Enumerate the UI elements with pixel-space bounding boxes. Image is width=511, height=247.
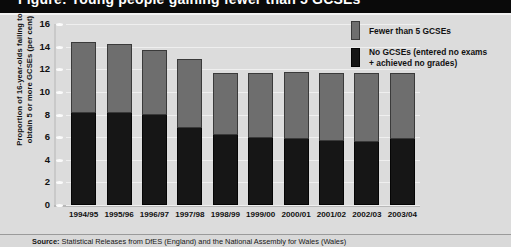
y-axis-tick: [56, 181, 63, 184]
bar-1998-99[interactable]: [213, 73, 238, 205]
source-body: Statistical Releases from DfES (England)…: [62, 237, 347, 246]
y-tick-label: 4: [10, 154, 50, 165]
x-tick-label: 1997/98: [172, 210, 207, 219]
legend-label: No GCSEs (entered no exams+ achieved no …: [369, 47, 487, 68]
legend-item[interactable]: No GCSEs (entered no exams+ achieved no …: [351, 47, 487, 70]
y-tick-label: 2: [10, 176, 50, 187]
chart-panel: Proportion of 16-year-olds failing toobt…: [0, 13, 511, 234]
bar-segment-fewer-than-5: [319, 73, 344, 141]
title-band: Figure: Young people gaining fewer than …: [0, 0, 511, 13]
bar-1994-95[interactable]: [71, 42, 96, 205]
bar-2000-01[interactable]: [284, 72, 309, 205]
y-axis-tick: [56, 68, 63, 71]
bar-segment-no-gcses: [390, 139, 415, 205]
bar-2003-04[interactable]: [390, 73, 415, 205]
bar-segment-no-gcses: [248, 138, 273, 205]
bar-segment-no-gcses: [284, 139, 309, 205]
figure-title: Figure: Young people gaining fewer than …: [18, 0, 361, 7]
y-tick-label: 6: [10, 131, 50, 142]
x-tick-label: 1995/96: [101, 210, 136, 219]
x-tick-label: 2002/03: [349, 210, 384, 219]
legend-item[interactable]: Fewer than 5 GCSEs: [351, 20, 487, 38]
y-axis-tick: [56, 204, 63, 207]
x-tick-label: 2000/01: [278, 210, 313, 219]
bar-segment-no-gcses: [319, 141, 344, 205]
legend-swatch-icon: [351, 21, 360, 40]
x-tick-label: 2003/04: [385, 210, 420, 219]
source-label: Source:: [32, 237, 60, 246]
y-axis-tick: [56, 91, 63, 94]
bar-1996-97[interactable]: [142, 50, 167, 205]
bar-segment-fewer-than-5: [177, 59, 202, 128]
x-tick-label: 1996/97: [137, 210, 172, 219]
bar-segment-fewer-than-5: [107, 44, 132, 113]
figure-chart-root: Figure: Young people gaining fewer than …: [0, 0, 511, 247]
bar-segment-fewer-than-5: [390, 73, 415, 140]
y-axis-tick: [56, 23, 63, 26]
gridline: [66, 205, 420, 206]
bar-segment-fewer-than-5: [248, 73, 273, 139]
bar-2002-03[interactable]: [354, 73, 379, 205]
legend: Fewer than 5 GCSEsNo GCSEs (entered no e…: [351, 20, 487, 79]
bar-1997-98[interactable]: [177, 59, 202, 205]
y-tick-label: 10: [10, 86, 50, 97]
y-tick-label: 0: [10, 199, 50, 210]
legend-swatch-icon: [351, 48, 360, 67]
x-tick-label: 1998/99: [208, 210, 243, 219]
bar-segment-fewer-than-5: [213, 73, 238, 135]
bar-segment-fewer-than-5: [142, 50, 167, 114]
legend-label: Fewer than 5 GCSEs: [369, 26, 451, 37]
y-axis-tick: [56, 114, 63, 117]
x-tick-label: 2001/02: [314, 210, 349, 219]
x-tick-label: 1999/00: [243, 210, 278, 219]
y-tick-label: 8: [10, 109, 50, 120]
bar-segment-no-gcses: [71, 113, 96, 205]
bar-segment-no-gcses: [142, 115, 167, 206]
y-axis-tick: [56, 159, 63, 162]
y-tick-label: 16: [10, 18, 50, 29]
y-tick-label: 14: [10, 41, 50, 52]
y-axis-tick: [56, 136, 63, 139]
bar-segment-fewer-than-5: [71, 42, 96, 113]
y-tick-label: 12: [10, 63, 50, 74]
y-axis-tick: [56, 46, 63, 49]
source-band: Source: Statistical Releases from DfES (…: [0, 234, 511, 247]
source-text: Source: Statistical Releases from DfES (…: [32, 235, 346, 247]
x-tick-label: 1994/95: [66, 210, 101, 219]
bar-segment-no-gcses: [107, 113, 132, 205]
bar-2001-02[interactable]: [319, 73, 344, 205]
bar-segment-no-gcses: [213, 135, 238, 205]
bar-segment-no-gcses: [177, 128, 202, 205]
bar-1995-96[interactable]: [107, 44, 132, 205]
bar-segment-fewer-than-5: [284, 72, 309, 140]
bar-segment-no-gcses: [354, 142, 379, 205]
bar-segment-fewer-than-5: [354, 73, 379, 142]
bar-1999-00[interactable]: [248, 73, 273, 205]
